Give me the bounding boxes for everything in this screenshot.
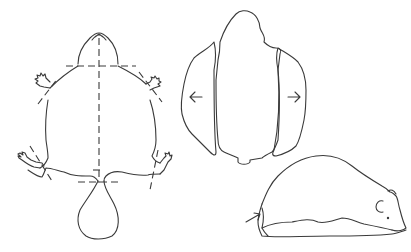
base-edge-outline — [262, 208, 268, 236]
diagram-svg — [0, 0, 411, 252]
body-left-upper — [50, 66, 78, 88]
eye-dot — [387, 217, 389, 219]
diagram-canvas — [0, 0, 411, 252]
skin-pattern-figure — [181, 11, 306, 165]
left-hindleg-lower — [28, 168, 98, 181]
body-side-outline — [262, 155, 406, 230]
left-forepaw — [35, 73, 50, 88]
body-right-side — [150, 100, 160, 163]
flat-skin-figure — [18, 33, 172, 239]
body-left-side — [40, 100, 48, 168]
right-hindpaw — [160, 152, 172, 174]
right-hindlimb-cut — [150, 150, 158, 190]
left-hindpaw — [18, 152, 44, 168]
right-forepaw — [146, 76, 161, 90]
side-view-figure — [246, 155, 406, 236]
right-hindleg-lower — [104, 172, 160, 181]
central-piece-outline — [216, 11, 281, 165]
ear-c — [376, 201, 383, 212]
right-arrow-icon — [288, 92, 300, 102]
left-flap-outline — [181, 42, 216, 155]
ear-outline — [388, 190, 396, 194]
head-outline — [78, 33, 118, 64]
belly-wave-outline — [262, 218, 392, 230]
left-hindlimb-cut — [30, 146, 52, 181]
tail-outline — [78, 181, 118, 239]
left-arrow-icon — [190, 92, 202, 102]
